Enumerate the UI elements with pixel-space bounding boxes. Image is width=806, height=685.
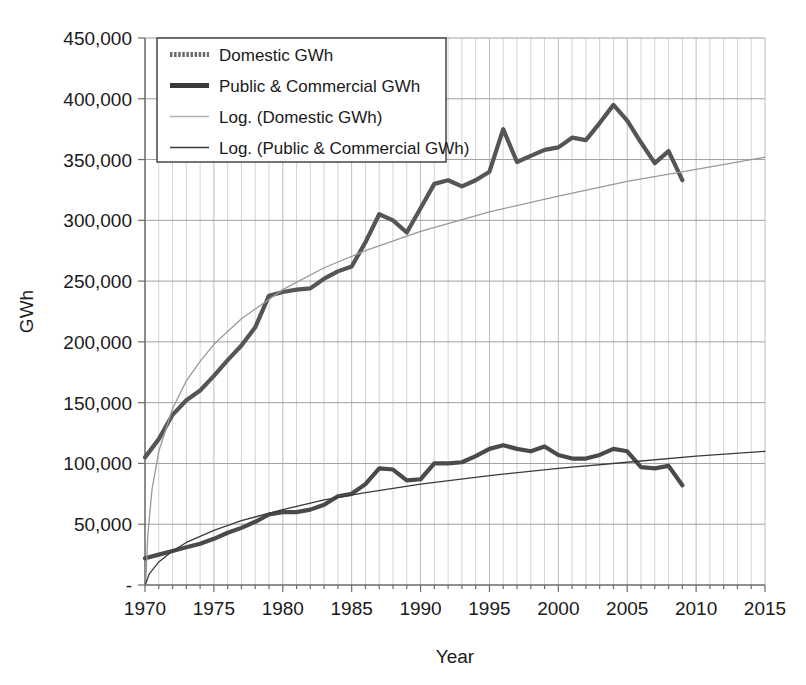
x-tick-label: 1990 (399, 598, 441, 619)
x-tick-label: 2000 (537, 598, 579, 619)
legend-label: Public & Commercial GWh (219, 77, 420, 96)
legend-label: Log. (Domestic GWh) (219, 108, 382, 127)
y-axis-title: GWh (16, 290, 37, 333)
y-tick-label: 250,000 (63, 271, 132, 292)
x-tick-label: 2010 (675, 598, 717, 619)
x-tick-label: 1995 (468, 598, 510, 619)
legend-label: Log. (Public & Commercial GWh) (219, 139, 469, 158)
y-tick-label: 50,000 (74, 514, 132, 535)
y-tick-label: - (126, 575, 132, 596)
x-tick-label: 1970 (124, 598, 166, 619)
y-tick-label: 100,000 (63, 453, 132, 474)
x-tick-label: 2015 (744, 598, 786, 619)
legend-label: Domestic GWh (219, 46, 333, 65)
x-tick-label: 2005 (606, 598, 648, 619)
x-axis-title: Year (436, 646, 475, 667)
x-tick-label: 1975 (193, 598, 235, 619)
line-chart: 1970197519801985199019952000200520102015… (0, 0, 806, 685)
y-tick-label: 200,000 (63, 332, 132, 353)
y-tick-label: 450,000 (63, 28, 132, 49)
x-tick-label: 1980 (262, 598, 304, 619)
x-tick-label: 1985 (331, 598, 373, 619)
chart-page: 1970197519801985199019952000200520102015… (0, 0, 806, 685)
y-tick-label: 300,000 (63, 210, 132, 231)
y-tick-label: 350,000 (63, 150, 132, 171)
chart-legend: Domestic GWhPublic & Commercial GWhLog. … (157, 38, 469, 162)
y-tick-label: 150,000 (63, 393, 132, 414)
y-tick-label: 400,000 (63, 89, 132, 110)
